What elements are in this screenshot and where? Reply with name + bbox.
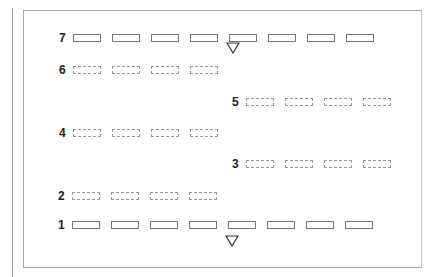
- cell-box: [306, 221, 334, 229]
- cell-box: [111, 221, 139, 229]
- cell-box: [72, 192, 100, 200]
- row-label: 6: [59, 63, 73, 77]
- cell-box: [346, 34, 374, 42]
- row-label: 1: [58, 218, 72, 232]
- cell-box: [267, 221, 295, 229]
- cell-box: [324, 160, 352, 168]
- cell-box: [363, 160, 391, 168]
- cell-box: [190, 129, 218, 137]
- cell-box: [324, 98, 352, 106]
- cell-box: [307, 34, 335, 42]
- row-label: 5: [232, 95, 246, 109]
- row-5: 5: [232, 95, 402, 109]
- cell-box: [151, 34, 179, 42]
- cell-box: [151, 66, 179, 74]
- cell-box: [285, 98, 313, 106]
- cell-box: [150, 192, 178, 200]
- cell-box: [229, 34, 257, 42]
- cell-box: [112, 129, 140, 137]
- cell-box: [268, 34, 296, 42]
- cell-box: [73, 34, 101, 42]
- cell-box: [285, 160, 313, 168]
- row-label: 4: [59, 126, 73, 140]
- cell-box: [189, 192, 217, 200]
- cell-box: [189, 221, 217, 229]
- row-2: 2: [58, 189, 228, 203]
- cell-box: [112, 34, 140, 42]
- row-label: 7: [59, 31, 73, 45]
- row-1: 1: [58, 218, 384, 232]
- row-3: 3: [232, 157, 402, 171]
- row-4: 4: [59, 126, 229, 140]
- cell-box: [72, 221, 100, 229]
- cell-box: [246, 160, 274, 168]
- cell-box: [112, 66, 140, 74]
- row-label: 2: [58, 189, 72, 203]
- cell-box: [73, 129, 101, 137]
- cell-box: [150, 221, 178, 229]
- left-margin-line: [12, 8, 13, 277]
- row-6: 6: [59, 63, 229, 77]
- cell-box: [190, 66, 218, 74]
- cell-box: [111, 192, 139, 200]
- cell-box: [228, 221, 256, 229]
- cell-box: [151, 129, 179, 137]
- cell-box: [363, 98, 391, 106]
- cell-box: [73, 66, 101, 74]
- cell-box: [190, 34, 218, 42]
- cell-box: [345, 221, 373, 229]
- row-7: 7: [59, 31, 385, 45]
- row-label: 3: [232, 157, 246, 171]
- cell-box: [246, 98, 274, 106]
